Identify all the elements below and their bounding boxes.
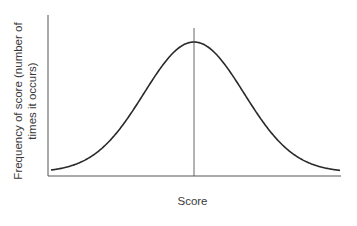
y-axis-label: Frequency of score (number of times it o…	[11, 11, 45, 191]
normal-curve	[51, 42, 340, 170]
y-axis-label-line2: times it occurs)	[25, 11, 39, 191]
x-axis-label: Score	[0, 195, 357, 207]
bell-curve-diagram	[0, 0, 357, 226]
y-axis-label-line1: Frequency of score (number of	[11, 11, 25, 191]
